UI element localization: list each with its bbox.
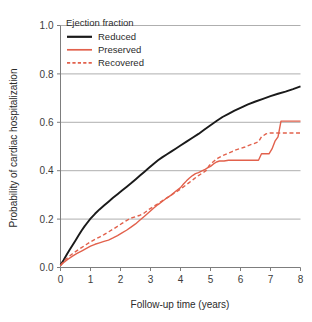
data-series <box>61 86 301 265</box>
y-tick-label: 0.8 <box>40 69 54 80</box>
legend-label-preserved: Preserved <box>98 44 141 55</box>
legend-title: Ejection fraction <box>66 17 134 28</box>
series-line-preserved <box>61 121 301 265</box>
chart-canvas: 0.00.20.40.60.81.0 012345678 Ejection fr… <box>0 0 312 322</box>
x-tick-label: 6 <box>238 274 244 285</box>
series-line-recovered <box>61 133 301 266</box>
y-axis-title: Probability of cardiac hospitalization <box>8 69 19 228</box>
x-axis-title: Follow-up time (years) <box>131 299 230 310</box>
y-tick-label: 0.0 <box>40 262 54 273</box>
chart-figure: 0.00.20.40.60.81.0 012345678 Ejection fr… <box>0 0 312 322</box>
x-tick-label: 8 <box>298 274 304 285</box>
legend-label-reduced: Reduced <box>98 31 136 42</box>
x-tick-label: 7 <box>268 274 274 285</box>
x-tick-label: 0 <box>58 274 64 285</box>
x-tick-label: 1 <box>88 274 94 285</box>
series-line-reduced <box>61 86 301 265</box>
y-tick-label: 0.4 <box>40 165 54 176</box>
y-tick-label: 1.0 <box>40 20 54 31</box>
y-tick-label: 0.2 <box>40 214 54 225</box>
x-tick-label: 3 <box>148 274 154 285</box>
y-axis <box>57 26 61 268</box>
x-tick-label: 4 <box>178 274 184 285</box>
x-tick-label: 5 <box>208 274 214 285</box>
legend: Ejection fractionReducedPreservedRecover… <box>66 17 144 68</box>
x-axis <box>61 268 301 272</box>
x-tick-label: 2 <box>118 274 124 285</box>
y-tick-labels: 0.00.20.40.60.81.0 <box>40 20 54 273</box>
x-tick-labels: 012345678 <box>58 274 304 285</box>
y-tick-label: 0.6 <box>40 117 54 128</box>
gridlines <box>61 26 301 220</box>
legend-label-recovered: Recovered <box>98 57 144 68</box>
